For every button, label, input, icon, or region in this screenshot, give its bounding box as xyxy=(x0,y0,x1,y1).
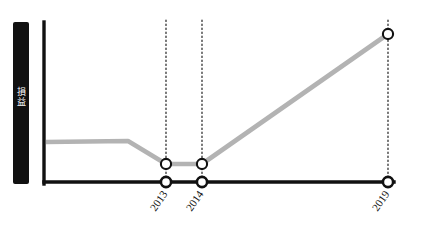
chart-background xyxy=(0,0,429,225)
axis-marker-2014[interactable] xyxy=(197,177,207,187)
chart-canvas: 損益 2013 2014 2019 xyxy=(0,0,429,225)
axis-marker-2019[interactable] xyxy=(383,177,393,187)
data-point-2013[interactable] xyxy=(161,159,171,169)
data-point-2014[interactable] xyxy=(197,159,207,169)
axis-marker-2013[interactable] xyxy=(161,177,171,187)
profit-loss-line-chart: 損益 2013 2014 2019 xyxy=(0,0,429,225)
y-axis-title: 損益 xyxy=(17,86,27,107)
data-point-2019[interactable] xyxy=(383,29,393,39)
